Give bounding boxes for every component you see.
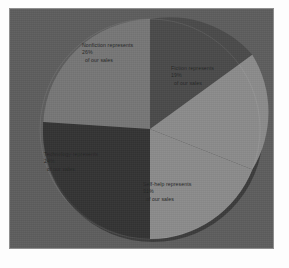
pie-label-selfhelp-line1: Self-help represents [143, 181, 191, 187]
pie-label-technology-line3: of our sales [44, 166, 98, 173]
pie-label-technology-line1: Technology represents [44, 151, 98, 157]
pie-label-technology: Technology represents 24% of our sales [44, 151, 98, 173]
slide-panel: Nonfiction represents 26% of our sales F… [9, 8, 274, 249]
photo-edge-right [276, 0, 289, 268]
slide-photo: Nonfiction represents 26% of our sales F… [0, 0, 289, 268]
pie-slice-nonfiction[interactable] [43, 19, 150, 129]
pie-label-fiction-value: 19% [171, 72, 214, 79]
pie-label-selfhelp: Self-help represents 31% of our sales [143, 181, 191, 203]
pie-label-nonfiction-line1: Nonfiction represents [82, 42, 133, 48]
pie-label-selfhelp-value: 31% [143, 188, 191, 195]
pie-label-nonfiction-line3: of our sales [82, 57, 133, 64]
pie-chart-svg [10, 9, 274, 249]
pie-slice-technology[interactable] [43, 122, 150, 239]
pie-label-fiction-line3: of our sales [171, 80, 214, 87]
photo-edge-left [0, 0, 3, 268]
pie-label-fiction-line1: Fiction represents [171, 65, 214, 71]
pie-chart: Nonfiction represents 26% of our sales F… [10, 9, 274, 249]
pie-label-fiction: Fiction represents 19% of our sales [171, 65, 214, 87]
pie-label-selfhelp-line3: of our sales [143, 196, 191, 203]
photo-edge-bottom [0, 251, 289, 268]
photo-edge-top [0, 0, 289, 3]
pie-label-nonfiction: Nonfiction represents 26% of our sales [82, 42, 133, 64]
pie-label-nonfiction-value: 26% [82, 49, 133, 56]
pie-label-technology-value: 24% [44, 158, 98, 165]
